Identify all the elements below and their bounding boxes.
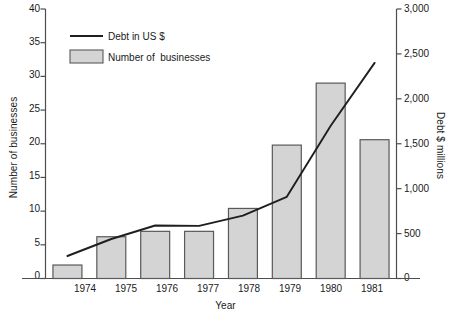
bar-1974 <box>53 265 82 278</box>
bar-1979 <box>272 145 301 278</box>
chart-figure: Number of businesses Debt $ millions Yea… <box>0 0 451 318</box>
bar-1981 <box>360 140 389 279</box>
plot-area <box>0 0 451 318</box>
y-axis-right-ticks <box>397 9 402 279</box>
legend-markers <box>70 36 103 63</box>
bar-1977 <box>185 231 214 278</box>
bar-series <box>53 83 389 278</box>
y-axis-left-ticks <box>41 9 46 279</box>
legend-rect-swatch <box>70 50 103 63</box>
bar-1976 <box>141 231 170 278</box>
